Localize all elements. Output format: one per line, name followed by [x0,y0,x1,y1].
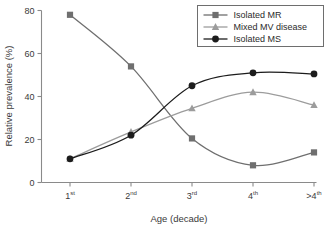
series-isolated-ms [67,69,318,162]
chart-figure: 020406080 Relative prevalence (%) 1st2nd… [0,0,329,229]
series-2-point [128,132,135,139]
series-2-point [189,82,196,89]
y-tick-marks [38,11,42,183]
series-2-point [250,69,257,76]
x-tick-label: 4th [248,190,258,201]
x-tick-label: 1st [65,190,75,201]
legend-label: Isolated MS [234,34,282,44]
legend-label: Isolated MR [234,10,283,20]
y-axis-title: Relative prevalence (%) [3,46,14,147]
y-tick-label: 0 [29,178,34,188]
chart-legend: Isolated MRMixed MV diseaseIsolated MS [198,6,324,47]
x-tick-labels: 1st2nd3rd4th>4th [65,190,321,201]
x-tick-marks [70,183,314,187]
y-tick-label: 80 [24,6,34,16]
legend-marker-0-point [212,12,218,18]
legend-marker-2-point [212,36,219,43]
y-tick-label: 40 [24,92,34,102]
series-line [70,92,314,159]
x-tick-label: 3rd [187,190,197,201]
y-tick-label: 60 [24,49,34,59]
legend-label: Mixed MV disease [234,22,308,32]
series-0-point [128,63,134,69]
series-0-point [67,12,73,18]
y-tick-labels: 020406080 [24,6,34,188]
series-0-point [311,149,317,155]
y-tick-label: 20 [24,135,34,145]
series-2-point [67,155,74,162]
x-tick-label: 2nd [125,190,137,201]
x-tick-label: >4th [306,190,321,201]
series-0-point [189,135,195,141]
series-mixed-mv-disease [66,88,317,161]
series-0-point [250,162,256,168]
x-axis-title: Age (decade) [150,213,207,224]
prevalence-line-chart: 020406080 Relative prevalence (%) 1st2nd… [0,0,329,229]
series-2-point [311,71,318,78]
